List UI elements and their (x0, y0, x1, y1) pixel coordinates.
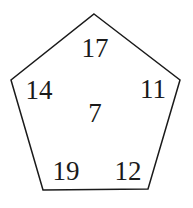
number-left: 14 (26, 75, 54, 105)
number-bottom-right: 12 (115, 156, 142, 186)
number-center: 7 (88, 98, 102, 128)
number-right: 11 (140, 74, 166, 104)
pentagon-number-puzzle: 17 14 11 7 19 12 (0, 0, 193, 208)
number-top: 17 (82, 33, 109, 63)
number-bottom-left: 19 (53, 156, 80, 186)
pentagon-diagram: 17 14 11 7 19 12 (0, 0, 193, 208)
